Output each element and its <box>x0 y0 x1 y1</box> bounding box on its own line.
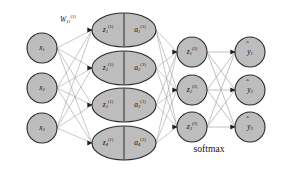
edges-input-to-hidden1 <box>57 30 92 143</box>
network-canvas: x1x2x3 z1(1)a1(1)z2(1)a2(1)z3(1)a3(1)z4(… <box>0 0 281 174</box>
input-node-x2: x2 <box>27 73 57 103</box>
input-node-x1: x1 <box>27 33 57 63</box>
input-node-x3: x3 <box>27 113 57 143</box>
hidden-layer-1: z1(1)a1(1)z2(1)a2(1)z3(1)a3(1)z4(1)a4(1) <box>92 13 156 160</box>
output-node-y3: y3ˆ <box>235 112 265 142</box>
neural-network-diagram: x1x2x3 z1(1)a1(1)z2(1)a2(1)z3(1)a3(1)z4(… <box>0 0 281 174</box>
weight-label: W11(1) <box>60 14 76 25</box>
input-layer: x1x2x3 <box>27 33 57 143</box>
hidden-layer-2: z1(2)z2(2)z3(2) <box>177 37 207 142</box>
softmax-label: softmax <box>194 143 225 154</box>
hidden2-node-z3b: z3(2) <box>177 112 207 142</box>
hidden1-node-h3: z3(1)a3(1) <box>92 88 156 122</box>
hidden2-node-z1b: z1(2) <box>177 37 207 67</box>
output-node-y2: y2ˆ <box>235 75 265 105</box>
output-layer: y1ˆy2ˆy3ˆ <box>235 37 265 142</box>
hidden1-node-h2: z2(1)a2(1) <box>92 51 156 85</box>
output-node-y1: y1ˆ <box>235 37 265 67</box>
hidden1-node-h1: z1(1)a1(1) <box>92 13 156 47</box>
hidden2-node-z2b: z2(2) <box>177 75 207 105</box>
hidden1-node-h4: z4(1)a4(1) <box>92 126 156 160</box>
svg-text:W11(1): W11(1) <box>60 14 76 25</box>
